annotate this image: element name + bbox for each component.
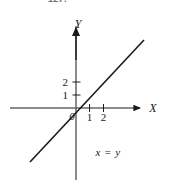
origin-label: 0 [69,110,75,122]
y-tick-label-2: 2 [63,76,69,88]
x-tick-label-2: 2 [101,111,107,123]
x-axis-label: X [148,101,157,115]
line-x-equals-y [30,40,144,162]
figure-container: 127. X Y 0 1 2 1 2 x = y [0,0,169,185]
y-tick-label-1: 1 [63,89,69,101]
x-tick-label-1: 1 [87,111,93,123]
coordinate-plot: X Y 0 1 2 1 2 x = y [0,0,169,185]
equation-annotation: x = y [94,146,120,158]
y-axis-label: Y [75,17,83,31]
